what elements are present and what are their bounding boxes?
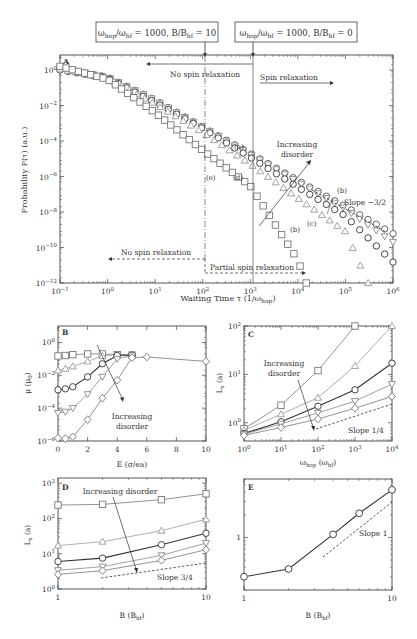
svg-text:101: 101 [274, 444, 287, 455]
no-spin-relaxation-lower-label: No spin relaxation [121, 248, 191, 257]
svg-text:106: 106 [386, 286, 400, 297]
increasing-disorder-label-b-2: disorder [116, 422, 148, 431]
curve-a-label: (a) [234, 143, 244, 151]
svg-text:103: 103 [42, 478, 56, 489]
figure: ωhop/ωhf = 1000, B/Bhf = 10 ωhop/ωhf = 1… [0, 0, 417, 639]
series-d-1 [54, 516, 209, 548]
svg-text:0: 0 [56, 445, 61, 454]
svg-text:10: 10 [387, 594, 397, 603]
svg-text:101: 101 [42, 548, 55, 559]
curve-b-label-right: (b) [337, 187, 347, 195]
y-axis-label-b: μ (μ0) [23, 372, 33, 394]
slope-label-d: Slope 3/4 [157, 573, 193, 582]
svg-text:100: 100 [42, 584, 56, 595]
svg-text:100: 100 [228, 417, 242, 428]
callout-left: ωhop/ωhf = 1000, B/Bhf = 10 [96, 22, 218, 57]
svg-text:100: 100 [42, 337, 56, 348]
svg-text:104: 104 [291, 286, 305, 297]
svg-text:8: 8 [174, 445, 179, 454]
increasing-disorder-label-c-2: disorder [268, 369, 300, 378]
curve-d-label: (d) [233, 174, 243, 182]
svg-text:100: 100 [237, 444, 251, 455]
svg-text:10−1: 10−1 [51, 286, 69, 297]
svg-text:10−2: 10−2 [39, 100, 57, 111]
x-axis-label-b: E (σ/ea) [117, 460, 147, 469]
svg-text:2: 2 [85, 445, 90, 454]
increasing-disorder-label-d: Increasing disorder [83, 487, 158, 496]
svg-text:10−4: 10−4 [37, 403, 55, 414]
svg-text:102: 102 [42, 513, 55, 524]
panel-b: 024681010010−210−410−6 [37, 326, 211, 454]
curve-b-label-left: (b) [290, 226, 300, 234]
svg-text:1: 1 [242, 594, 247, 603]
svg-text:4: 4 [115, 445, 120, 454]
panel-a-annotations: A No spin relaxation Spin relaxation No … [20, 56, 386, 305]
svg-text:10−10: 10−10 [36, 242, 58, 253]
curve-c-label: (c) [307, 220, 317, 228]
svg-text:101: 101 [228, 369, 241, 380]
panel-e-annotations: E Slope 1 B (Bhf) [248, 483, 392, 621]
svg-text:102: 102 [311, 444, 324, 455]
increasing-disorder-label-2: disorder [281, 150, 313, 159]
svg-text:10−4: 10−4 [39, 136, 57, 147]
panel-d-label: D [62, 483, 69, 492]
svg-text:10−6: 10−6 [37, 436, 55, 447]
increasing-disorder-label-c: Increasing [264, 359, 305, 368]
panel-e: 1101 [236, 479, 397, 603]
series-a-1 [56, 66, 396, 246]
panel-a: 10−110010110210310410510610010−210−410−6… [36, 55, 400, 296]
series-d-2 [55, 530, 209, 565]
svg-text:101: 101 [149, 286, 162, 297]
svg-text:100: 100 [101, 286, 115, 297]
slope-label-c: Slope 1/4 [348, 426, 384, 435]
partial-spin-relaxation-label: Partial spin relaxation [210, 263, 294, 272]
x-axis-label-d: B (Bhf) [120, 611, 145, 621]
series-b-3 [54, 353, 135, 417]
panel-b-label: B [62, 328, 68, 337]
svg-text:102: 102 [228, 321, 241, 332]
svg-text:104: 104 [385, 444, 399, 455]
panel-e-label: E [248, 483, 254, 492]
x-axis-label-c: ωhop (ωhf) [300, 458, 337, 469]
spin-relaxation-label: Spin relaxation [260, 73, 318, 82]
svg-text:100: 100 [44, 65, 58, 76]
y-axis-label-d: Ls (a) [23, 525, 33, 546]
svg-text:1: 1 [56, 593, 61, 602]
increasing-disorder-label-b: Increasing [112, 412, 153, 421]
svg-text:10: 10 [201, 445, 211, 454]
svg-text:10−8: 10−8 [39, 207, 57, 218]
increasing-disorder-label: Increasing [277, 140, 318, 149]
panel-c-label: C [248, 330, 254, 339]
callout-right: ωhop/ωhf = 1000, B/Bhf = 0 [235, 22, 357, 57]
svg-text:105: 105 [339, 286, 353, 297]
svg-text:6: 6 [144, 445, 149, 454]
slope-label-e: Slope 1 [359, 529, 387, 538]
y-axis-label-c: Ls (a) [215, 373, 225, 394]
panel-a-label: A [62, 56, 70, 66]
svg-text:103: 103 [348, 444, 362, 455]
svg-text:10: 10 [201, 593, 211, 602]
slope-label: Slope −3/2 [344, 198, 386, 207]
svg-text:10−2: 10−2 [37, 370, 55, 381]
svg-text:10−6: 10−6 [39, 171, 57, 182]
x-axis-label-a: Waiting Time τ (1/ωhop) [180, 294, 275, 305]
svg-text:1: 1 [236, 533, 241, 542]
curve-e-label: (e) [206, 174, 216, 182]
y-axis-label-a: Probability P(τ) (a.u.) [20, 127, 29, 214]
x-axis-label-e: B (Bhf) [306, 611, 331, 621]
